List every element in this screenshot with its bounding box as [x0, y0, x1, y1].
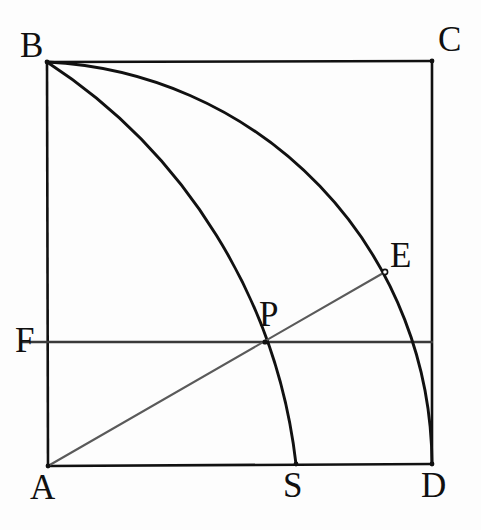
point-label-c: C — [438, 22, 461, 57]
point-label-a: A — [30, 470, 55, 505]
point-label-s: S — [283, 468, 302, 503]
vertex-dot-b — [45, 60, 50, 65]
segment-ae-cevian — [48, 272, 385, 466]
point-label-f: F — [15, 323, 34, 358]
vertex-dot-e — [382, 269, 387, 274]
segment-ab-left-side — [47, 62, 48, 466]
segment-ad-bottom-side — [48, 464, 432, 466]
segment-bc-top-side — [47, 61, 432, 62]
geometry-figure: B C A D E F P S — [0, 0, 481, 530]
point-label-b: B — [20, 28, 43, 63]
vertex-dot-c — [430, 59, 435, 64]
point-label-d: D — [421, 468, 446, 503]
arc-inner-bs — [47, 62, 296, 464]
point-label-e: E — [390, 238, 411, 273]
vertex-dot-p — [262, 339, 267, 344]
arc-outer-bd — [47, 62, 432, 464]
point-label-p: P — [259, 297, 278, 332]
